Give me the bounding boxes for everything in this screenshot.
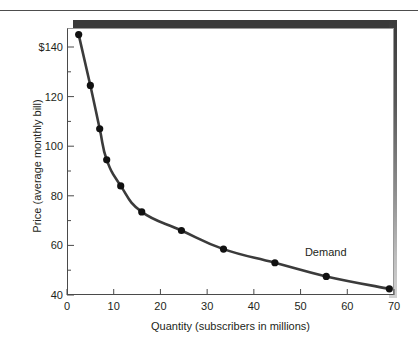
x-tick-label: 30 bbox=[192, 301, 222, 312]
x-tick-label: 70 bbox=[379, 301, 409, 312]
data-point-marker bbox=[138, 208, 145, 215]
data-point-marker bbox=[178, 227, 185, 234]
x-tick-label: 60 bbox=[332, 301, 362, 312]
data-point-marker bbox=[386, 285, 393, 292]
data-point-marker bbox=[103, 156, 110, 163]
demand-curve-figure: 406080100120$140 010203040506070 Demand … bbox=[0, 0, 418, 342]
x-tick-label: 40 bbox=[239, 301, 269, 312]
x-tick-label: 50 bbox=[286, 301, 316, 312]
x-tick-label: 20 bbox=[145, 301, 175, 312]
data-point-marker bbox=[96, 125, 103, 132]
data-point-marker bbox=[117, 182, 124, 189]
data-point-marker bbox=[75, 31, 82, 38]
x-tick-label: 0 bbox=[52, 301, 82, 312]
y-tick-label: 40 bbox=[10, 290, 63, 301]
data-point-marker bbox=[220, 246, 227, 253]
data-point-marker bbox=[87, 82, 94, 89]
y-axis-title: Price (average monthly bill) bbox=[31, 56, 43, 276]
x-tick-label: 10 bbox=[99, 301, 129, 312]
y-tick-label: $140 bbox=[10, 42, 63, 53]
x-axis-title: Quantity (subscribers in millions) bbox=[67, 320, 394, 332]
data-point-marker bbox=[323, 273, 330, 280]
demand-series-label: Demand bbox=[305, 246, 347, 258]
data-point-marker bbox=[271, 259, 278, 266]
